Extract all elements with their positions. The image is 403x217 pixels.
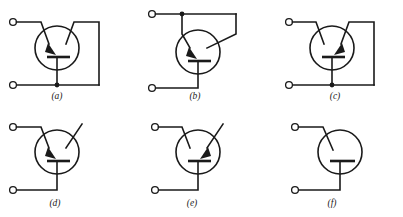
panel-b: (b) — [149, 11, 236, 102]
circuit-diagram-canvas: (a) (b) — [0, 0, 403, 217]
emitter-down-lead-d — [17, 161, 58, 190]
terminal-upper-left-a — [10, 19, 17, 26]
base-lead-b — [182, 14, 190, 48]
terminal-upper-left-c — [286, 19, 293, 26]
emitter-arrow-a — [45, 43, 56, 55]
terminal-lower-left-e — [152, 187, 159, 194]
panel-c: (c) — [286, 19, 374, 102]
emitter-arrow-e — [200, 147, 211, 159]
collector-lead-b — [207, 14, 236, 48]
emitter-arrow-c — [334, 43, 345, 55]
panel-label-e: (e) — [187, 198, 198, 209]
terminal-lower-left-d — [10, 187, 17, 194]
base-lead-f — [299, 127, 334, 150]
panel-label-a: (a) — [51, 91, 62, 102]
collector-open-lead-d — [66, 124, 82, 148]
collector-lead-c — [341, 22, 374, 85]
emitter-arrow-d — [45, 147, 56, 159]
collector-lead-a — [66, 22, 99, 85]
panel-d: (d) — [10, 124, 82, 209]
panel-e: (e) — [152, 124, 223, 209]
emitter-arrow-b — [186, 47, 197, 59]
panel-a: (a) — [10, 19, 99, 102]
panel-label-f: (f) — [328, 198, 337, 209]
base-lead-c — [293, 22, 325, 44]
terminal-lower-left-b — [149, 85, 156, 92]
figure-root: (a) (b) — [0, 0, 403, 217]
collector-open-lead-e — [207, 124, 223, 148]
base-lead-e — [159, 127, 191, 148]
terminal-upper-left-b — [149, 11, 156, 18]
junction-dot-c — [330, 83, 335, 88]
junction-dot-a — [55, 83, 60, 88]
emitter-down-lead-e — [159, 161, 199, 190]
terminal-upper-left-d — [10, 124, 17, 131]
terminal-lower-left-c — [286, 82, 293, 89]
panel-f: (f) — [292, 124, 362, 209]
terminal-lower-left-f — [292, 187, 299, 194]
panel-label-b: (b) — [189, 91, 200, 102]
terminal-upper-left-e — [152, 124, 159, 131]
terminal-lower-left-a — [10, 82, 17, 89]
emitter-down-lead-f — [299, 161, 341, 190]
terminal-upper-left-f — [292, 124, 299, 131]
panel-label-d: (d) — [49, 198, 60, 209]
emitter-down-lead-b — [156, 61, 199, 88]
base-lead-d — [17, 127, 50, 148]
base-lead-a — [17, 22, 50, 44]
panel-label-c: (c) — [330, 91, 341, 102]
